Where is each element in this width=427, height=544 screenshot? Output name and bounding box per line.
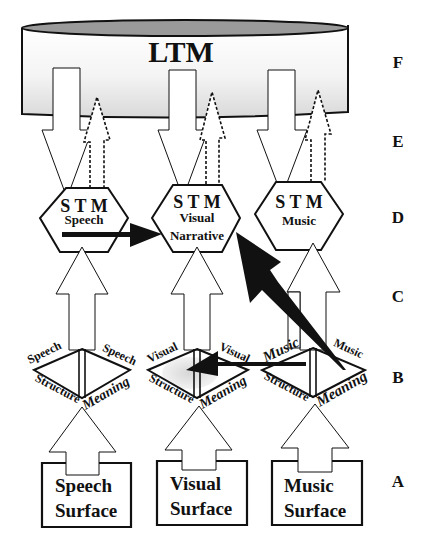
level-f: F (393, 53, 403, 72)
surface-visual-line2: Surface (170, 498, 232, 519)
diamonds (34, 348, 365, 398)
stm-speech-label: Speech (65, 212, 105, 227)
diamond-speech-bottom-right: Meaning (79, 374, 133, 414)
diamond-music-bottom-left: Structure (262, 369, 313, 405)
surface-music-line2: Surface (284, 500, 346, 521)
level-b: B (392, 368, 403, 387)
surface-music-line1: Music (284, 475, 334, 496)
stm-visual-title: S T M (173, 192, 220, 212)
level-c: C (392, 287, 404, 306)
diamond-speech-top-right: Speech (100, 340, 139, 368)
diagram-canvas: LTM S T M Speech S T M Visual Narrative … (0, 0, 427, 544)
surface-speech-line2: Surface (55, 500, 117, 521)
level-labels: F E D C B A (392, 53, 405, 491)
up-arrow-speech-c (56, 247, 108, 350)
stm-visual-label-2: Narrative (170, 228, 224, 243)
diamond-music-bottom-right: Meaning (312, 368, 370, 411)
level-e: E (392, 132, 403, 151)
level-a: A (392, 472, 405, 491)
diamond-speech-top-left: Speech (25, 338, 64, 367)
surface-visual-line1: Visual (170, 473, 221, 494)
up-arrow-visual-c (171, 247, 223, 350)
surface-speech-line1: Speech (55, 475, 112, 496)
ltm-label: LTM (148, 35, 214, 68)
level-d: D (392, 208, 404, 227)
stm-visual-label-1: Visual (180, 210, 215, 225)
stm-music-title: S T M (275, 192, 322, 212)
diamond-music-top-left: Music (259, 334, 302, 366)
diamond-speech-bottom-left: Structure (33, 371, 84, 407)
up-arrow-speech-a (49, 407, 116, 475)
diamond-visual-top-right: Visual (217, 339, 253, 366)
stm-music-label: Music (282, 213, 316, 228)
